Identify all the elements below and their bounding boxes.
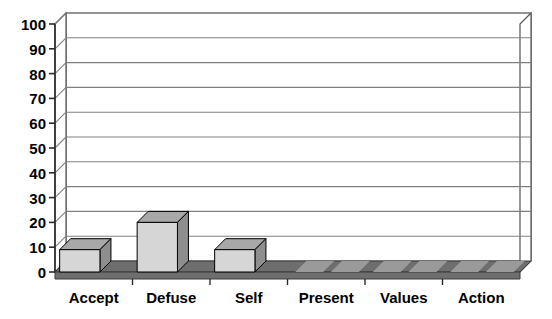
x-tick-label-present: Present [299, 290, 354, 305]
x-tick-label-values: Values [380, 290, 428, 305]
bar-defuse [137, 211, 188, 272]
x-tick-label-self: Self [235, 290, 263, 305]
x-tick-label-accept: Accept [69, 290, 119, 305]
x-tick-label-action: Action [458, 290, 505, 305]
x-tick-label-defuse: Defuse [146, 290, 196, 305]
bar-accept [60, 239, 111, 272]
floor-front [55, 272, 520, 279]
chart-3d-scene [0, 0, 552, 319]
bar-self [215, 239, 266, 272]
right-wall [520, 13, 531, 272]
bar-chart: 0102030405060708090100 AcceptDefuseSelfP… [0, 0, 552, 319]
